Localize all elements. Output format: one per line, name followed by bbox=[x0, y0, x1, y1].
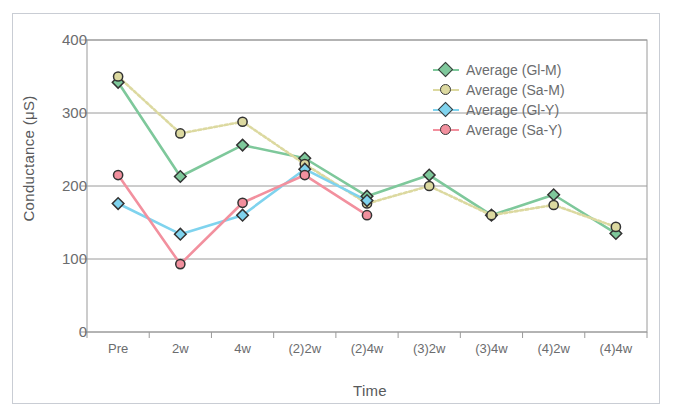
data-point bbox=[238, 198, 247, 207]
legend-label: Average (Gl-M) bbox=[466, 62, 561, 78]
x-tick-label: Pre bbox=[108, 341, 128, 356]
y-axis-tick-labels: 400 300 200 100 0 bbox=[40, 0, 87, 419]
y-tick-0: 0 bbox=[41, 323, 87, 340]
chart-figure: 400 300 200 100 0 Pre2w4w(2)2w(2)4w(3)2w… bbox=[0, 0, 673, 419]
legend-marker-circle-icon bbox=[440, 124, 451, 135]
legend-item-1: Average (Sa-M) bbox=[433, 80, 565, 100]
data-point bbox=[114, 170, 123, 179]
x-tick-label: (3)4w bbox=[475, 341, 508, 356]
x-tick-label: (4)2w bbox=[537, 341, 570, 356]
data-point bbox=[176, 129, 185, 138]
data-point bbox=[548, 189, 560, 201]
legend-marker-circle-icon bbox=[440, 84, 451, 95]
data-point bbox=[549, 200, 558, 209]
data-point bbox=[114, 72, 123, 81]
y-tick-200: 200 bbox=[41, 177, 87, 194]
legend-label: Average (Gl-Y) bbox=[466, 102, 559, 118]
legend-line-swatch bbox=[433, 69, 459, 71]
x-tick-label: 2w bbox=[172, 341, 189, 356]
data-point bbox=[611, 222, 620, 231]
legend-marker-diamond-icon bbox=[438, 102, 454, 118]
x-tick-label: (2)2w bbox=[289, 341, 322, 356]
legend-item-3: Average (Sa-Y) bbox=[433, 120, 565, 140]
data-point bbox=[487, 211, 496, 220]
x-tick-label: 4w bbox=[234, 341, 251, 356]
y-tick-300: 300 bbox=[41, 104, 87, 121]
y-tick-100: 100 bbox=[41, 250, 87, 267]
data-point bbox=[112, 198, 124, 210]
legend-item-2: Average (Gl-Y) bbox=[433, 100, 565, 120]
plot-canvas bbox=[0, 0, 673, 419]
legend-label: Average (Sa-Y) bbox=[466, 122, 562, 138]
data-point bbox=[362, 211, 371, 220]
x-tick-label: (2)4w bbox=[351, 341, 384, 356]
y-tick-400: 400 bbox=[41, 31, 87, 48]
data-point bbox=[237, 139, 249, 151]
x-axis-title: Time bbox=[93, 382, 647, 399]
x-tick-label: (3)2w bbox=[413, 341, 446, 356]
chart-legend: Average (Gl-M)Average (Sa-M)Average (Gl-… bbox=[433, 60, 565, 140]
data-point bbox=[300, 170, 309, 179]
legend-line-swatch bbox=[433, 129, 459, 131]
legend-label: Average (Sa-M) bbox=[466, 82, 565, 98]
data-point bbox=[425, 181, 434, 190]
legend-item-0: Average (Gl-M) bbox=[433, 60, 565, 80]
data-point bbox=[238, 117, 247, 126]
x-tick-label: (4)4w bbox=[600, 341, 633, 356]
legend-line-swatch bbox=[433, 89, 459, 91]
legend-marker-diamond-icon bbox=[438, 62, 454, 78]
data-point bbox=[176, 260, 185, 269]
legend-line-swatch bbox=[433, 109, 459, 111]
data-point bbox=[175, 228, 187, 240]
y-axis-title: Conductance (μS) bbox=[20, 9, 37, 309]
